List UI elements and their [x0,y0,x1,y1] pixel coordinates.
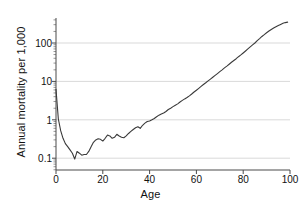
mortality-by-age-chart: Annual mortality per 1,000 Age 0.1110100… [0,0,301,212]
y-tick-label-1: 1 [18,114,52,125]
x-tick-label-40: 40 [144,174,155,185]
gridlines-group [56,43,290,158]
x-tick-label-100: 100 [282,174,299,185]
y-tick-label-10: 10 [18,76,52,87]
x-axis-title: Age [0,188,301,200]
y-tick-label-0.1: 0.1 [18,153,52,164]
x-tick-label-80: 80 [238,174,249,185]
y-tick-label-100: 100 [18,38,52,49]
x-tick-label-20: 20 [97,174,108,185]
x-tick-label-0: 0 [53,174,59,185]
y-axis-title: Annual mortality per 1,000 [14,12,28,172]
x-tick-label-60: 60 [191,174,202,185]
